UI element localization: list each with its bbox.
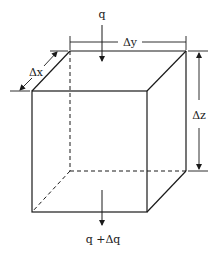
outflow-label: q +Δq: [86, 233, 121, 246]
inflow-label: q: [98, 8, 105, 21]
dz-label: Δz: [192, 109, 206, 122]
dx-arrow-up: [44, 52, 57, 66]
bottom-right-depth-edge: [147, 171, 186, 212]
control-volume-diagram: Δy Δz Δx q q +Δq: [0, 0, 218, 256]
dy-label: Δy: [123, 36, 138, 49]
bottom-left-depth-edge: [32, 171, 70, 212]
dx-arrow-down: [20, 78, 32, 90]
top-right-depth-edge: [147, 51, 186, 91]
visible-edges: [32, 51, 186, 212]
dx-label: Δx: [29, 66, 44, 79]
cube-diagram-svg: Δy Δz Δx q q +Δq: [0, 0, 218, 256]
